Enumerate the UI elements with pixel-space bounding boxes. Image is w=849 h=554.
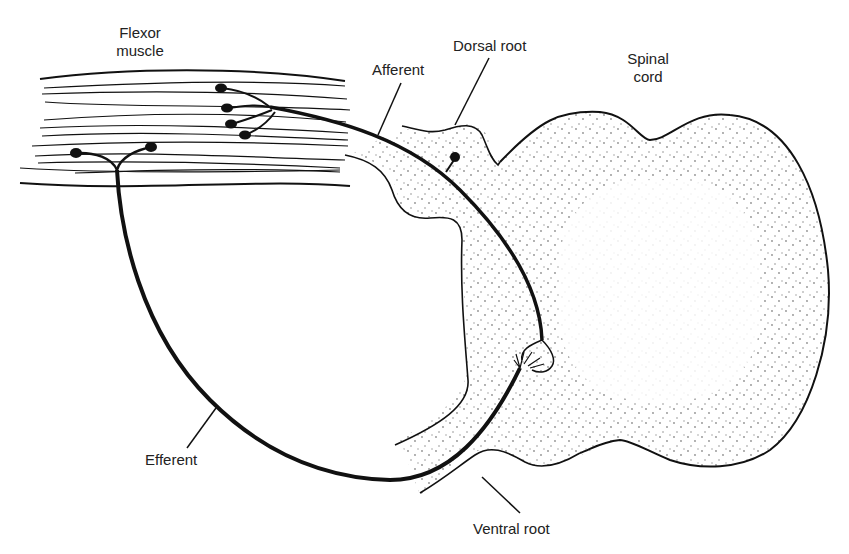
diagram-canvas: [0, 0, 849, 554]
reflex-arc-diagram: Flexor muscle Afferent Dorsal root Spina…: [0, 0, 849, 554]
spinal-cord-label-line1: Spinal: [620, 50, 676, 68]
flexor-muscle-fibers: [20, 70, 350, 186]
spinal-cord-stipple: [340, 100, 840, 520]
spinal-cord-label-line2: cord: [620, 68, 676, 86]
flexor-muscle-label-line1: Flexor: [110, 24, 170, 42]
ventral-root-label: Ventral root: [473, 520, 550, 538]
spinal-cord-label: Spinal cord: [620, 50, 676, 86]
afferent-label: Afferent: [372, 61, 424, 79]
dorsal-root-label: Dorsal root: [453, 37, 526, 55]
flexor-muscle-label-line2: muscle: [110, 42, 170, 60]
flexor-muscle-label: Flexor muscle: [110, 24, 170, 60]
efferent-label: Efferent: [145, 451, 197, 469]
